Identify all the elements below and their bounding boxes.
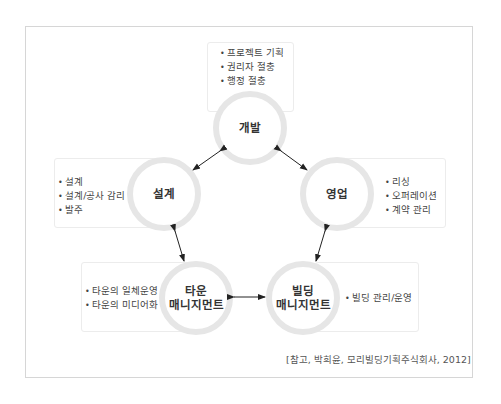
arrow-development-sales [281, 151, 307, 170]
arrow-design-town [175, 231, 184, 261]
arrow-development-design [193, 151, 220, 170]
citation: [참고, 박희윤, 모리빌딩기획주식회사, 2012] [286, 352, 471, 366]
connector-arrows [0, 0, 501, 404]
arrow-sales-building [316, 231, 325, 261]
